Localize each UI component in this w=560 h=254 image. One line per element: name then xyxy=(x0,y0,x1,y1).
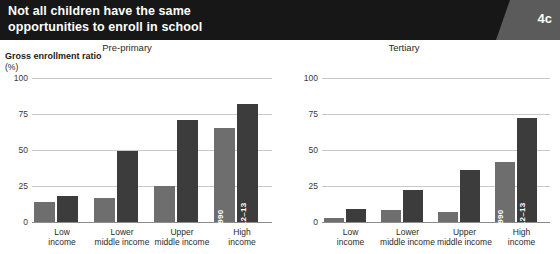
y-axis-tick-label: 25 xyxy=(309,181,318,191)
category-label-line: High xyxy=(228,227,255,237)
gridline xyxy=(322,222,550,223)
figure-title-line-1: Not all children have the same xyxy=(8,4,438,20)
figure-title-line-2: opportunities to enroll in school xyxy=(8,20,438,36)
category-label: Lowincome xyxy=(337,227,364,247)
bar-old: 1990 xyxy=(495,162,515,222)
bar-old xyxy=(34,202,55,222)
bar-group: 19902012–13Highincome xyxy=(212,78,272,222)
category-label-line: income xyxy=(508,237,535,247)
y-axis-label: Gross enrollment ratio xyxy=(5,51,102,61)
category-label-line: Low xyxy=(48,227,75,237)
category-label-line: Upper xyxy=(155,227,210,237)
category-label-line: middle income xyxy=(437,237,492,247)
category-label: Highincome xyxy=(228,227,255,247)
bar-old xyxy=(438,212,458,222)
category-label-line: income xyxy=(337,237,364,247)
y-axis-tick-label: 75 xyxy=(309,109,318,119)
category-label-line: High xyxy=(508,227,535,237)
category-label-line: Lower xyxy=(380,227,435,237)
category-label-line: Upper xyxy=(437,227,492,237)
bar-group: Uppermiddle income xyxy=(436,78,493,222)
bar-group: 19902012–13Highincome xyxy=(493,78,550,222)
category-label-line: middle income xyxy=(95,237,150,247)
category-label: Lowermiddle income xyxy=(380,227,435,247)
category-label-line: middle income xyxy=(380,237,435,247)
category-label: Uppermiddle income xyxy=(437,227,492,247)
category-label: Lowincome xyxy=(48,227,75,247)
y-axis-unit: (%) xyxy=(5,62,18,72)
y-axis-tick-label: 50 xyxy=(19,145,28,155)
y-axis-tick-label: 100 xyxy=(14,73,28,83)
bar-series-label: 1990 xyxy=(496,210,505,229)
bar-old xyxy=(94,198,115,222)
chart-title-tertiary: Tertiary xyxy=(282,42,560,53)
bar-old xyxy=(381,210,401,222)
gridline xyxy=(32,222,272,223)
chart-panel-pre-primary: Pre-primary Gross enrollment ratio (%) 0… xyxy=(0,40,282,254)
category-label: Highincome xyxy=(508,227,535,247)
y-axis-tick-label: 25 xyxy=(19,181,28,191)
plot-area-pre-primary: 0255075100LowincomeLowermiddle incomeUpp… xyxy=(32,78,272,222)
category-label-line: Low xyxy=(337,227,364,237)
figure-header: Not all children have the same opportuni… xyxy=(0,0,560,40)
category-label-line: income xyxy=(228,237,255,247)
y-axis-tick-label: 100 xyxy=(304,73,318,83)
bar-recent xyxy=(57,196,78,222)
bar-recent xyxy=(460,170,480,222)
bar-group: Lowermiddle income xyxy=(379,78,436,222)
category-label-line: Lower xyxy=(95,227,150,237)
bar-group: Lowincome xyxy=(32,78,92,222)
bar-old xyxy=(154,186,175,222)
category-label: Uppermiddle income xyxy=(155,227,210,247)
bar-old xyxy=(324,218,344,222)
bar-group: Lowincome xyxy=(322,78,379,222)
bar-recent xyxy=(403,190,423,222)
bar-recent xyxy=(117,151,138,222)
category-label-line: income xyxy=(48,237,75,247)
figure-title: Not all children have the same opportuni… xyxy=(8,4,438,35)
bar-recent: 2012–13 xyxy=(517,118,537,222)
figure-number-badge: 4c xyxy=(538,11,552,26)
y-axis-tick-label: 50 xyxy=(309,145,318,155)
category-label-line: middle income xyxy=(155,237,210,247)
category-label: Lowermiddle income xyxy=(95,227,150,247)
y-axis-tick-label: 0 xyxy=(313,217,318,227)
chart-panel-tertiary: Tertiary 0255075100LowincomeLowermiddle … xyxy=(282,40,560,254)
y-axis-tick-label: 0 xyxy=(23,217,28,227)
bar-recent xyxy=(177,120,198,222)
bar-group: Uppermiddle income xyxy=(152,78,212,222)
bar-old: 1990 xyxy=(214,128,235,222)
y-axis-tick-label: 75 xyxy=(19,109,28,119)
bar-group: Lowermiddle income xyxy=(92,78,152,222)
bar-series-label: 1990 xyxy=(216,210,225,229)
bar-recent xyxy=(346,209,366,222)
bar-recent: 2012–13 xyxy=(237,104,258,222)
plot-area-tertiary: 0255075100LowincomeLowermiddle incomeUpp… xyxy=(322,78,550,222)
